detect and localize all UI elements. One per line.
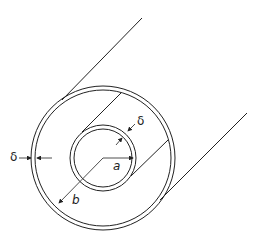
outer-cylinder-edge-top	[62, 18, 142, 100]
diagram-drawing	[0, 0, 261, 235]
outer-cylinder-edge-bottom	[160, 113, 247, 200]
inner-cylinder-edge-top	[82, 93, 121, 132]
delta-outer-label: δ	[10, 151, 17, 163]
inner-cylinder-edge-bottom	[131, 140, 168, 176]
delta-inner-arrow-inner	[116, 138, 122, 145]
radius-b-line	[59, 158, 103, 203]
delta-inner-arrow-outer	[128, 124, 135, 131]
radius-a-label: a	[113, 160, 120, 172]
delta-inner-label: δ	[137, 115, 144, 127]
coax-diagram: δ δ a b	[0, 0, 261, 235]
radius-b-label: b	[72, 194, 80, 206]
